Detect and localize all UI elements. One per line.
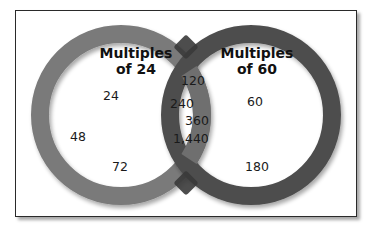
left-set-title: Multiples of 24: [91, 45, 181, 77]
left-value: 72: [112, 161, 128, 174]
right-title-line1: Multiples: [212, 45, 302, 61]
intersection-value: 120: [181, 75, 205, 88]
right-title-line2: of 60: [212, 61, 302, 77]
left-value: 24: [103, 90, 119, 103]
intersection-value: 240: [170, 98, 194, 111]
right-value: 60: [247, 96, 263, 109]
intersection-value: 360: [185, 115, 209, 128]
left-value: 48: [70, 131, 86, 144]
left-title-line2: of 24: [91, 61, 181, 77]
right-value: 180: [245, 161, 269, 174]
left-title-line1: Multiples: [91, 45, 181, 61]
right-set-title: Multiples of 60: [212, 45, 302, 77]
intersection-value: 1,440: [173, 133, 209, 146]
